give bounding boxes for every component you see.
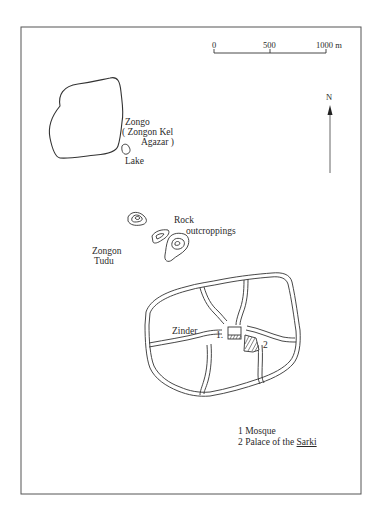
scale-tick-500: 500 xyxy=(263,40,276,50)
mosque-marker: 1. xyxy=(216,330,223,340)
zinder-label: Zinder xyxy=(172,326,197,336)
zongo-sub-label: ( Zongon Kel xyxy=(122,127,173,137)
rock-label: Rock xyxy=(174,215,194,225)
zongo-label: Zongo xyxy=(125,117,150,127)
zongon-tudu-label-2: Tudu xyxy=(94,256,114,266)
scale-tick-1000: 1000 m xyxy=(316,40,342,50)
scale-tick-0: 0 xyxy=(212,40,216,50)
zongo-sub-label-2: Agazar ) xyxy=(141,137,174,147)
north-arrow-icon xyxy=(328,105,333,173)
lake-outline xyxy=(122,144,130,154)
north-label: N xyxy=(326,92,332,102)
zongon-tudu-label: Zongon xyxy=(92,246,122,256)
map-frame xyxy=(21,27,361,494)
palace-marker: 2 xyxy=(263,340,268,350)
legend-sarki-term: Sarki xyxy=(297,437,317,447)
rock-label-2: outcroppings xyxy=(186,226,236,236)
legend-item-palace: 2 Palace of the Sarki xyxy=(238,437,317,447)
lake-label: Lake xyxy=(125,156,144,166)
legend-item-mosque: 1 Mosque xyxy=(238,426,276,436)
map-canvas xyxy=(0,0,383,523)
legend-palace-text: 2 Palace of the xyxy=(238,437,297,447)
zongo-outline xyxy=(49,78,123,159)
